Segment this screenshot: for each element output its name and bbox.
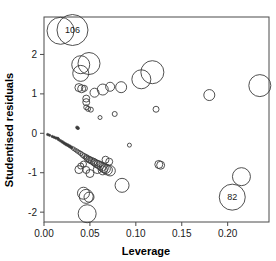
data-point-bubble xyxy=(78,53,100,75)
data-point-bubble xyxy=(204,90,215,101)
data-point-bubble xyxy=(232,168,250,186)
data-point-bubble xyxy=(48,134,50,136)
data-point-bubble xyxy=(106,82,115,91)
y-tick-label: 0 xyxy=(31,128,37,139)
x-axis-title: Leverage xyxy=(122,245,170,257)
data-point-bubble xyxy=(84,192,94,202)
data-point-bubble xyxy=(249,75,271,97)
x-axis-ticks: 0.000.050.100.150.20 xyxy=(34,222,238,239)
x-tick-label: 0.05 xyxy=(80,228,100,239)
x-tick-label: 0.10 xyxy=(126,228,146,239)
data-point-bubble xyxy=(78,205,96,223)
x-tick-label: 0.15 xyxy=(172,228,192,239)
data-point-bubble xyxy=(115,178,129,192)
y-axis-title: Studentised residuals xyxy=(3,73,15,187)
data-point-bubble xyxy=(127,143,131,147)
scatter-plot-figure: 0.000.050.100.150.20 -2-1012 10682 Lever… xyxy=(0,0,276,261)
data-point-bubble xyxy=(116,82,127,93)
y-tick-label: -2 xyxy=(28,207,37,218)
y-tick-label: -1 xyxy=(28,167,37,178)
data-point-bubble xyxy=(112,111,117,116)
y-tick-label: 1 xyxy=(31,88,37,99)
data-point-bubble xyxy=(153,106,159,112)
data-point-bubble xyxy=(76,126,79,129)
point-label-106: 106 xyxy=(65,25,80,35)
data-point-bubble xyxy=(132,70,151,89)
leverage-vs-residuals-chart: 0.000.050.100.150.20 -2-1012 10682 Lever… xyxy=(0,0,276,261)
data-point-bubble xyxy=(90,88,99,97)
x-tick-label: 0.20 xyxy=(218,228,238,239)
y-tick-label: 2 xyxy=(31,49,37,60)
data-point-bubble xyxy=(98,116,102,120)
x-tick-label: 0.00 xyxy=(34,228,54,239)
data-point-bubble xyxy=(141,61,164,84)
point-label-82: 82 xyxy=(227,192,237,202)
data-point-bubble xyxy=(75,166,83,174)
point-annotations: 10682 xyxy=(65,25,237,202)
y-axis-ticks: -2-1012 xyxy=(28,49,44,218)
